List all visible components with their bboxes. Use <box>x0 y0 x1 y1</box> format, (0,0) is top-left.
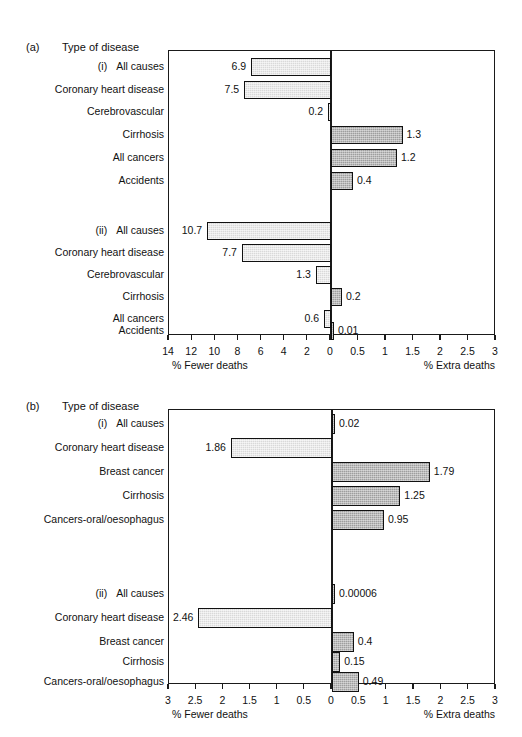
row-label: Cirrhosis <box>0 128 164 140</box>
bar-value: 1.2 <box>401 151 416 163</box>
row-label: Cancers-oral/oesophagus <box>0 513 164 525</box>
axis-label-left: % Fewer deaths <box>172 359 248 371</box>
row-label: Accidents <box>0 324 164 336</box>
bar <box>331 126 403 144</box>
row-label: Accidents <box>0 174 164 186</box>
row-label-text: All causes <box>116 587 164 599</box>
axis-tick-label: 8 <box>223 345 251 357</box>
axis-tick-label: 10 <box>200 345 228 357</box>
bar-value: 0.4 <box>358 635 373 647</box>
row-label-text: All causes <box>116 224 164 236</box>
bar-value: 0.6 <box>304 312 319 324</box>
axis-tick <box>412 335 413 340</box>
axis-tick <box>384 335 385 340</box>
row-label: Cerebrovascular <box>0 268 164 280</box>
axis-tick-label: 3 <box>481 694 509 706</box>
axis-label-right: % Extra deaths <box>424 708 495 720</box>
axis-tick-label: 3 <box>154 694 182 706</box>
row-label-text: All cancers <box>113 151 164 163</box>
bar-value: 7.7 <box>222 246 237 258</box>
bar <box>332 486 400 506</box>
bar-value: 1.3 <box>296 268 311 280</box>
axis-tick-label: 0.5 <box>344 694 372 706</box>
bar <box>332 672 359 692</box>
axis-tick-label: 1 <box>372 694 400 706</box>
bar <box>332 632 354 652</box>
bar <box>332 652 340 672</box>
axis-tick <box>283 335 284 340</box>
axis-tick <box>195 684 196 689</box>
axis-tick-label: 3 <box>481 345 509 357</box>
axis-tick <box>439 335 440 340</box>
bar <box>331 322 334 340</box>
axis-label-left: % Fewer deaths <box>172 708 248 720</box>
bar <box>331 149 397 167</box>
bar-value: 7.5 <box>225 83 240 95</box>
axis-tick-label: 1.5 <box>399 694 427 706</box>
axis-tick-label: 0.5 <box>290 694 318 706</box>
row-label-text: Breast cancer <box>99 635 164 647</box>
panel-heading: Type of disease <box>62 400 139 412</box>
axis-tick <box>412 684 413 689</box>
row-label-text: Coronary heart disease <box>55 246 164 258</box>
row-label-text: All cancers <box>113 312 164 324</box>
axis-tick <box>467 684 468 689</box>
bar-value: 0.15 <box>344 655 364 667</box>
bar <box>331 288 342 306</box>
panel-b: (b)Type of disease(i)All causes0.02Coron… <box>0 0 522 737</box>
axis-tick-label: 0.5 <box>344 345 372 357</box>
axis-tick-label: 0 <box>316 345 344 357</box>
bar-value: 0.00006 <box>339 587 377 599</box>
bar <box>332 584 335 604</box>
axis-tick <box>167 684 168 689</box>
panel-heading: Type of disease <box>62 41 139 53</box>
axis-tick-label: 1 <box>263 694 291 706</box>
bar <box>332 510 384 530</box>
row-label: (ii)All causes <box>0 224 164 236</box>
group-numeral: (i) <box>98 60 107 72</box>
row-label-text: All causes <box>116 60 164 72</box>
axis-tick <box>306 335 307 340</box>
row-label-text: Cirrhosis <box>123 290 164 302</box>
bar-value: 1.79 <box>434 465 454 477</box>
row-label-text: Accidents <box>118 174 164 186</box>
row-label: All cancers <box>0 151 164 163</box>
row-label: Cirrhosis <box>0 655 164 667</box>
group-numeral: (ii) <box>95 587 107 599</box>
axis-tick-label: 2.5 <box>454 694 482 706</box>
axis-tick-label: 6 <box>247 345 275 357</box>
bar <box>332 414 335 434</box>
axis-tick <box>358 684 359 689</box>
axis-tick <box>276 684 277 689</box>
bar <box>242 244 331 262</box>
group-numeral: (i) <box>98 417 107 429</box>
axis-tick-label: 4 <box>270 345 298 357</box>
bar <box>332 462 430 482</box>
row-label: Coronary heart disease <box>0 611 164 623</box>
axis-tick-label: 1 <box>371 345 399 357</box>
axis-tick-label: 2.5 <box>181 694 209 706</box>
row-label-text: Coronary heart disease <box>55 611 164 623</box>
axis-tick <box>467 335 468 340</box>
row-label-text: Cerebrovascular <box>87 268 164 280</box>
row-label-text: Accidents <box>118 324 164 336</box>
axis-tick <box>222 684 223 689</box>
bar-value: 10.7 <box>182 224 202 236</box>
row-label-text: Breast cancer <box>99 465 164 477</box>
axis-tick <box>237 335 238 340</box>
bar-value: 1.25 <box>404 489 424 501</box>
axis-tick-label: 2 <box>208 694 236 706</box>
zero-axis-line <box>331 410 333 683</box>
row-label: Cirrhosis <box>0 489 164 501</box>
row-label: Coronary heart disease <box>0 441 164 453</box>
bar-value: 0.2 <box>346 290 361 302</box>
axis-tick-label: 12 <box>177 345 205 357</box>
bar <box>328 103 331 121</box>
bar-value: 0.95 <box>388 513 408 525</box>
bar-value: 1.86 <box>206 441 226 453</box>
row-label-text: Cancers-oral/oesophagus <box>44 675 164 687</box>
panel-a: (a)Type of disease(i)All causes6.9Corona… <box>0 0 522 737</box>
axis-tick-label: 1.5 <box>399 345 427 357</box>
axis-tick-label: 2 <box>426 694 454 706</box>
row-label: Breast cancer <box>0 465 164 477</box>
